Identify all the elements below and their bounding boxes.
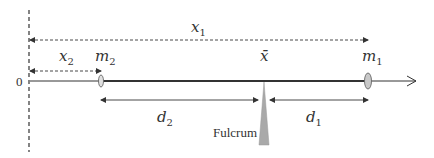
fulcrum-icon <box>259 82 269 145</box>
mass-m2 <box>99 75 104 87</box>
x2-label: x2 <box>59 47 74 67</box>
fulcrum-label: Fulcrum <box>213 125 257 140</box>
m2-label: m2 <box>95 47 116 67</box>
mass-m1 <box>365 73 372 89</box>
origin-label: 0 <box>16 74 23 89</box>
lever-diagram: 0 x1 x2 m2 m1 x̄ Fulcrum d2 d1 <box>0 0 434 158</box>
xbar-label: x̄ <box>260 47 269 65</box>
m1-label: m1 <box>362 47 383 67</box>
d2-label: d2 <box>157 108 173 128</box>
d1-label: d1 <box>306 108 322 128</box>
x1-label: x1 <box>191 18 206 38</box>
